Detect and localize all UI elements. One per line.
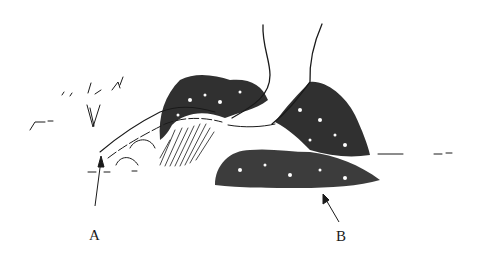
vegetation (160, 75, 380, 188)
illustration: A B (0, 0, 478, 256)
label-a: A (89, 227, 100, 244)
ground-dashes-left (88, 171, 137, 172)
trunk-base-line (228, 124, 275, 127)
arrow-a-head (98, 156, 104, 167)
grass-tuft-v (87, 105, 100, 127)
grass-left-2 (30, 121, 53, 130)
tree-base-drawing (0, 0, 478, 256)
grass-left-1 (62, 77, 123, 96)
shrub-left (160, 75, 268, 140)
label-b: B (336, 228, 346, 245)
fallen-branch-upper (100, 108, 215, 153)
mound-arcs (116, 140, 155, 165)
shrub-right (275, 82, 370, 157)
ground-dashes-right (378, 153, 452, 154)
